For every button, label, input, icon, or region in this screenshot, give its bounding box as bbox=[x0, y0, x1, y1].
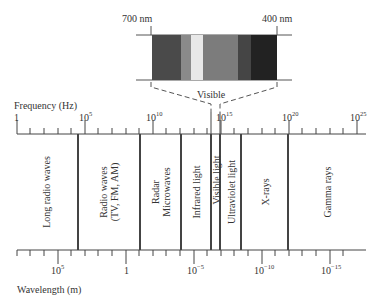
wavelength-axis-title: Wavelength (m) bbox=[17, 284, 81, 295]
region-ultraviolet: Ultraviolet light bbox=[226, 160, 237, 224]
visible-caption: Visible bbox=[197, 89, 225, 100]
wl-tick-5: 105 bbox=[51, 265, 64, 276]
visible-spectrum-band bbox=[0, 0, 382, 299]
region-radar-microwaves: RadarMicrowaves bbox=[150, 167, 172, 216]
region-gamma-rays: Gamma rays bbox=[322, 167, 333, 218]
freq-tick-20: 1020 bbox=[282, 112, 299, 123]
freq-tick-0: 1 bbox=[14, 112, 19, 123]
frequency-axis-title: Frequency (Hz) bbox=[14, 100, 77, 111]
freq-tick-25: 1025 bbox=[350, 112, 367, 123]
wl-tick-minus15: 10−15 bbox=[321, 265, 341, 276]
region-radio-waves: Radio waves(TV, FM, AM) bbox=[98, 163, 120, 222]
region-long-radio-waves: Long radio waves bbox=[41, 156, 52, 228]
freq-tick-5: 105 bbox=[79, 112, 92, 123]
wl-tick-minus10: 10−10 bbox=[254, 265, 274, 276]
region-visible: Visible light bbox=[211, 155, 222, 204]
region-infrared: Infrared light bbox=[191, 165, 202, 218]
wl-tick-0: 1 bbox=[124, 265, 129, 276]
region-x-rays: X-rays bbox=[260, 178, 271, 205]
freq-tick-15: 1015 bbox=[216, 112, 233, 123]
freq-tick-10: 1010 bbox=[146, 112, 163, 123]
wl-tick-minus5: 10−5 bbox=[187, 265, 204, 276]
